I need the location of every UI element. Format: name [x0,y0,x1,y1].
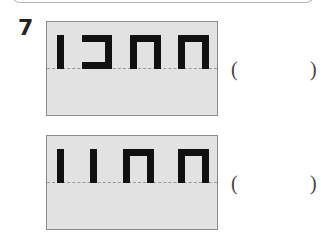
vertical-bar-glyph [57,35,64,69]
answer-blank-1[interactable] [243,58,303,80]
vertical-bar-glyph [90,149,97,183]
arch-glyph [178,35,209,69]
answer-close-paren: ) [310,173,317,193]
answer-close-paren: ) [310,59,317,79]
answer-blank-2[interactable] [243,172,303,194]
previous-question-frame [12,0,314,3]
question-number: 7 [18,17,33,39]
glyph-card-1 [46,21,218,116]
glyph-card-2 [46,135,218,230]
vertical-bar-glyph [57,149,64,183]
arch-glyph [130,35,161,69]
right-bracket-glyph [82,35,112,69]
arch-glyph [178,149,209,183]
answer-open-paren: ( [231,173,238,193]
arch-glyph [123,149,154,183]
answer-open-paren: ( [231,59,238,79]
